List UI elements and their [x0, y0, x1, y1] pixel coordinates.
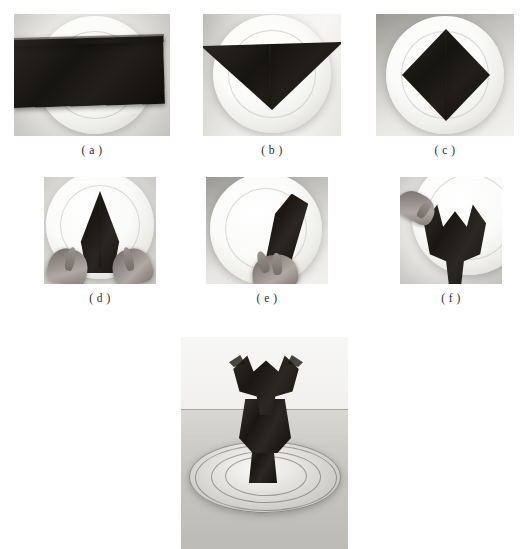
figure-panel-final [181, 337, 348, 549]
panel-c-photo [376, 14, 514, 136]
panel-e-photo [206, 177, 328, 284]
caption-a: ( a ) [14, 144, 170, 156]
figure-panel-a [14, 14, 170, 136]
panel-b-photo [203, 14, 341, 136]
panel-f-photo [400, 177, 502, 284]
caption-d: ( d ) [44, 292, 156, 304]
figure-panel-d [44, 177, 156, 284]
cut-off-header-text: ····· ··· ··· ···· [18, 0, 106, 3]
figure-panel-e [206, 177, 328, 284]
figure-panel-f [400, 177, 502, 284]
panel-a-photo [14, 14, 170, 136]
napkin-folding-figure: ····· ··· ··· ···· ( a ) ( b ) ( c ) [0, 0, 528, 549]
napkin-triangle-centre-crease [269, 44, 271, 106]
panel-final-photo [181, 337, 348, 549]
napkin-spire-crease [99, 195, 101, 267]
cut-off-header-line: ····· ··· ··· ···· [0, 0, 528, 9]
napkin-band [14, 36, 165, 108]
caption-b: ( b ) [203, 144, 341, 156]
caption-c: ( c ) [376, 144, 514, 156]
caption-e: ( e ) [206, 292, 328, 304]
panel-d-photo [44, 177, 156, 284]
figure-panel-c [376, 14, 514, 136]
napkin-diamond-crease [445, 31, 447, 117]
figure-panel-b [203, 14, 341, 136]
caption-f: ( f ) [400, 292, 502, 304]
